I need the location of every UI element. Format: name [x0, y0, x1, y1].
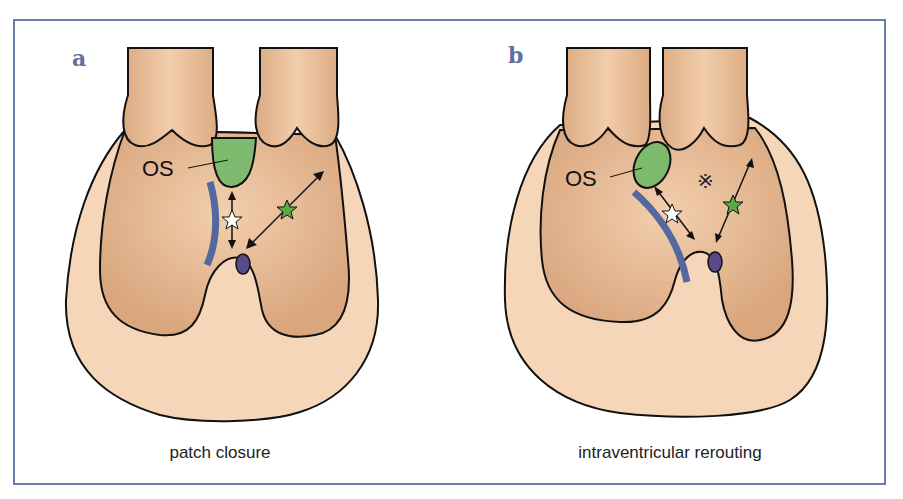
os-label-b: OS [565, 166, 597, 191]
panel-a-heart: OS [66, 48, 378, 421]
caption-a: patch closure [110, 443, 330, 463]
os-label-a: OS [142, 156, 174, 181]
caption-b: intraventricular rerouting [520, 443, 820, 463]
panel-b-heart: OS ※ [505, 48, 827, 417]
reference-mark-icon: ※ [697, 170, 714, 192]
heart-diagram: OS OS ※ [0, 0, 903, 499]
